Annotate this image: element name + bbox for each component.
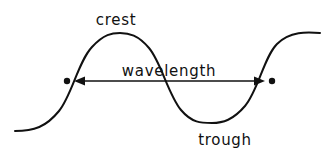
wave-point-left-dot [64, 78, 70, 84]
label-wavelength: wavelength [122, 62, 216, 80]
label-crest: crest [96, 11, 137, 29]
label-trough: trough [198, 131, 252, 149]
wave-point-right-dot [269, 78, 275, 84]
wave-diagram: crest wavelength trough [0, 0, 333, 154]
wave-diagram-canvas: crest wavelength trough [0, 0, 333, 154]
